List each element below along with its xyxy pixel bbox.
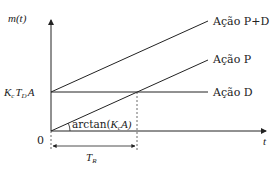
x-axis-label: t	[263, 135, 267, 147]
pid-action-diagram: m(t) t 0 KcTDA arctan(KcA) TR Ação P+D A…	[0, 0, 278, 169]
origin-label: 0	[37, 134, 44, 147]
curve-label-p: Ação P	[212, 53, 252, 66]
interval-label: TR	[86, 151, 97, 165]
level-label: KcTDA	[3, 86, 35, 100]
curve-label-pd: Ação P+D	[212, 15, 269, 28]
angle-label: arctan(KcA)	[72, 118, 132, 132]
y-axis-label: m(t)	[8, 12, 27, 25]
curve-label-d: Ação D	[212, 86, 253, 99]
angle-arc	[68, 123, 70, 131]
curve-pd	[51, 21, 208, 92]
